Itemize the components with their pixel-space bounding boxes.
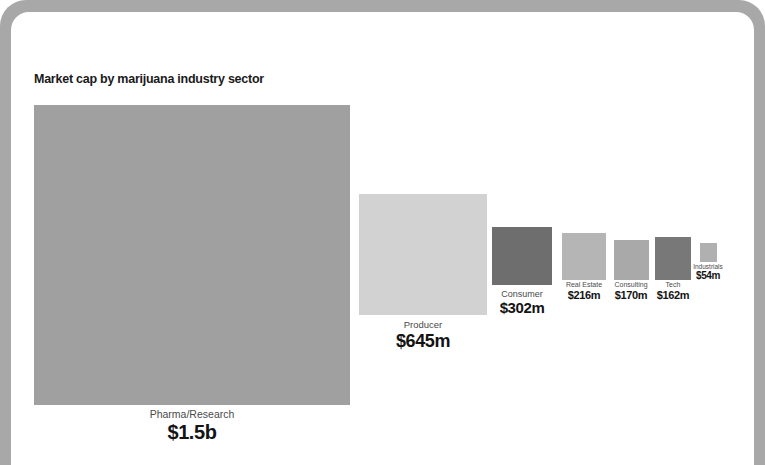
sector-value-label: $54m [598,270,765,282]
sector-rect[interactable] [492,227,552,285]
sector-value-label: $162m [563,289,765,302]
sector-value-label: $1.5b [82,420,302,444]
sector-label-group: Producer$645m [313,320,533,353]
sector-value-label: $645m [313,331,533,353]
sector-name-label: Industrials [598,263,765,270]
market-cap-treemap-chart: Market cap by marijuana industry sector … [0,0,765,465]
sector-label-group: Industrials$54m [598,263,765,282]
sector-rect[interactable] [700,243,717,262]
sector-name-label: Producer [313,320,533,331]
sector-rect[interactable] [34,105,350,405]
chart-title: Market cap by marijuana industry sector [34,72,264,86]
sector-label-group: Tech$162m [563,281,765,302]
sector-label-group: Pharma/Research$1.5b [82,408,302,444]
sector-name-label: Pharma/Research [82,408,302,420]
